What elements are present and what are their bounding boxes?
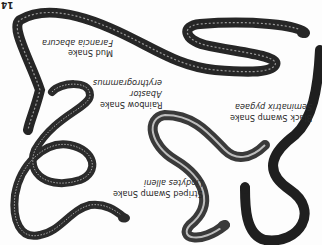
black-swamp-snake-common-name: Black Swamp Snake xyxy=(230,113,312,123)
striped-swamp-snake-scientific-name: Liodytes alleni xyxy=(144,178,203,188)
striped-swamp-snake-common-name: Striped Swamp Snake xyxy=(113,189,203,199)
black-swamp-snake-illustration xyxy=(240,50,320,240)
field-guide-page: 14 Mud Snake Farancia abacura Rainbow Sn… xyxy=(0,0,322,245)
rainbow-snake-scientific-name-2: erythrogrammus xyxy=(93,78,162,88)
mud-snake-common-name: Mud Snake xyxy=(68,48,113,58)
rainbow-snake-scientific-name-1: Abastor xyxy=(130,89,162,99)
black-swamp-snake-scientific-name: Seminatrix pygaea xyxy=(235,102,312,112)
mud-snake-scientific-name: Farancia abacura xyxy=(42,38,113,48)
rainbow-snake-common-name: Rainbow Snake xyxy=(100,100,162,110)
